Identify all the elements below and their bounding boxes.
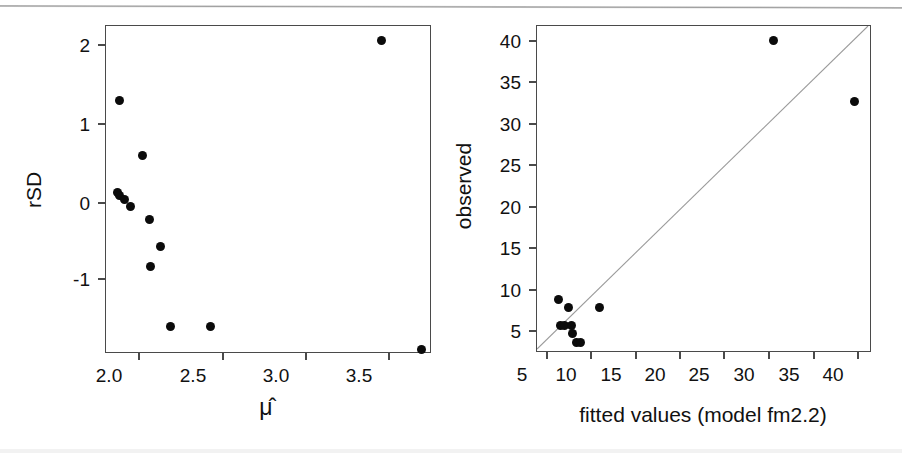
y-tick-right-40 (529, 40, 536, 42)
y-ticklabel-left-0: 0 (58, 194, 90, 213)
x-tick-right-10 (590, 352, 592, 359)
scatter-left-point (146, 262, 155, 271)
scatter-right-point (568, 329, 577, 338)
x-ticklabel-right-10: 10 (541, 365, 591, 384)
scatter-left-point (145, 215, 154, 224)
panel-observed-vs-fitted: 40 35 30 25 20 15 10 5 5 10 15 20 25 30 … (451, 0, 902, 453)
x-tick-right-30 (768, 352, 770, 359)
x-tick-left-30 (305, 353, 307, 360)
x-ticklabel-right-5: 5 (497, 365, 547, 384)
y-tick-right-15 (529, 247, 536, 249)
y-tick-right-25 (529, 164, 536, 166)
scatter-left-point (206, 322, 215, 331)
x-ticklabel-left-35: 3.5 (329, 366, 389, 385)
y-tick-right-30 (529, 123, 536, 125)
y-ticklabel-right-20: 20 (475, 198, 521, 217)
y-tick-left-m1 (98, 278, 105, 280)
y-ticklabel-right-30: 30 (475, 115, 521, 134)
y-ticklabel-left-m1: -1 (52, 270, 90, 289)
scatter-right-point (567, 321, 576, 330)
scatter-left-point (126, 202, 135, 211)
y-tick-right-20 (529, 206, 536, 208)
scatter-right-point (554, 295, 563, 304)
x-tick-right-5 (546, 352, 548, 359)
x-tick-right-20 (679, 352, 681, 359)
y-ticklabel-right-35: 35 (475, 73, 521, 92)
scatter-right-point (564, 303, 573, 312)
x-ticklabel-right-35: 35 (764, 365, 814, 384)
scatter-left-point (138, 151, 147, 160)
x-tick-right-35 (813, 352, 815, 359)
y-tick-left-2 (98, 44, 105, 46)
x-ticklabel-right-15: 15 (586, 365, 636, 384)
x-ticklabel-right-25: 25 (674, 365, 724, 384)
y-ticklabel-left-1: 1 (58, 115, 90, 134)
scatter-left-point (156, 242, 165, 251)
panel-residual-sd-vs-mu: 2 1 0 -1 2.0 2.5 3.0 3.5 rSD μ̂ (0, 0, 451, 453)
plot-area-right (537, 26, 870, 351)
x-tick-left-35 (388, 353, 390, 360)
scatter-right-point (576, 338, 585, 347)
y-tick-right-35 (529, 81, 536, 83)
y-ticklabel-right-10: 10 (475, 281, 521, 300)
scatter-right-point (850, 97, 859, 106)
y-axis-title-right: observed (453, 143, 474, 229)
scatter-right-point (769, 36, 778, 45)
y-tick-left-0 (98, 202, 105, 204)
x-tick-left-20 (138, 353, 140, 360)
scatter-left-point (417, 345, 426, 354)
plot-box-right (536, 25, 871, 352)
y-axis-title-left: rSD (23, 172, 44, 208)
y-ticklabel-right-15: 15 (475, 239, 521, 258)
figure-page: 2 1 0 -1 2.0 2.5 3.0 3.5 rSD μ̂ (0, 0, 902, 453)
y-tick-right-5 (529, 330, 536, 332)
plot-area-left (106, 26, 430, 352)
x-tick-right-15 (635, 352, 637, 359)
x-axis-title-right: fitted values (model fm2.2) (579, 404, 826, 425)
x-ticklabel-right-20: 20 (630, 365, 680, 384)
x-tick-right-25 (723, 352, 725, 359)
y-tick-left-1 (98, 123, 105, 125)
scatter-left-point (166, 322, 175, 331)
x-ticklabel-left-20: 2.0 (79, 366, 139, 385)
x-tick-left-25 (222, 353, 224, 360)
x-ticklabel-right-30: 30 (719, 365, 769, 384)
x-ticklabel-left-30: 3.0 (246, 366, 306, 385)
y-ticklabel-right-25: 25 (475, 156, 521, 175)
y-ticklabel-left-2: 2 (58, 36, 90, 55)
scatter-right-point (595, 303, 604, 312)
y-ticklabel-right-40: 40 (475, 32, 521, 51)
x-ticklabel-right-40: 40 (808, 365, 858, 384)
y-ticklabel-right-5: 5 (475, 322, 521, 341)
scatter-left-point (115, 96, 124, 105)
scatter-left-point (377, 36, 386, 45)
x-ticklabel-left-25: 2.5 (163, 366, 223, 385)
x-tick-right-40 (857, 352, 859, 359)
x-axis-title-left: μ̂ (259, 396, 272, 419)
y-tick-right-10 (529, 289, 536, 291)
plot-box-left (105, 25, 431, 353)
